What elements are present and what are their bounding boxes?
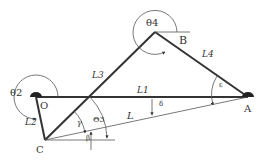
link-l4 — [155, 32, 248, 97]
label-gamma: γ — [77, 118, 82, 127]
label-b: B — [179, 34, 187, 47]
label-o: O — [40, 100, 48, 111]
label-l: L — [126, 110, 134, 121]
label-epsilon: ε — [219, 81, 223, 89]
label-l4: L4 — [201, 49, 214, 59]
label-theta3: Θ3 — [93, 115, 105, 124]
epsilon-arc — [212, 76, 217, 105]
pivot-a — [242, 92, 254, 97]
diagonal-l — [45, 97, 248, 140]
label-a: A — [243, 103, 252, 114]
label-l3: L3 — [91, 70, 104, 80]
label-delta: δ — [159, 100, 163, 108]
four-bar-linkage-diagram: θ2 O L2 C L3 L1 L γ Θ3 β δ ε θ4 B L4 A — [0, 0, 266, 161]
pivot-o — [30, 92, 42, 97]
label-c: C — [36, 144, 44, 155]
label-beta: β — [86, 134, 90, 142]
label-theta4: θ4 — [146, 17, 158, 28]
label-l2: L2 — [24, 117, 37, 127]
label-l1: L1 — [136, 85, 149, 95]
label-theta2: θ2 — [10, 87, 22, 98]
